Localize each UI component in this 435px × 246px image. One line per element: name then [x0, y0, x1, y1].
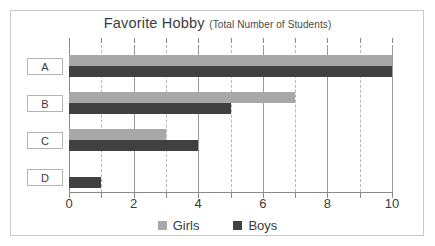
- chart-title: Favorite Hobby (Total Number of Students…: [0, 14, 435, 32]
- x-tick-label-10: 10: [377, 196, 407, 211]
- tick-top-2: [134, 38, 135, 43]
- tick-top-5: [231, 38, 232, 43]
- category-label-A: A: [27, 58, 63, 75]
- x-tick-label-8: 8: [312, 196, 342, 211]
- tick-bottom-3: [166, 193, 167, 198]
- category-label-D: D: [27, 169, 63, 186]
- category-label-B: B: [27, 95, 63, 112]
- x-tick-label-0: 0: [54, 196, 84, 211]
- x-tick-label-4: 4: [183, 196, 213, 211]
- bar-A-boys: [69, 66, 392, 77]
- chart-title-main: Favorite Hobby: [104, 15, 205, 31]
- chart-figure: Favorite Hobby (Total Number of Students…: [0, 0, 435, 246]
- bar-C-girls: [69, 129, 166, 140]
- bar-C-boys: [69, 140, 198, 151]
- tick-top-0: [69, 38, 70, 43]
- tick-top-9: [360, 38, 361, 43]
- bar-B-boys: [69, 103, 231, 114]
- legend-label-boys: Boys: [248, 218, 277, 233]
- x-tick-label-2: 2: [119, 196, 149, 211]
- tick-top-3: [166, 38, 167, 43]
- plot-area: [69, 45, 392, 192]
- tick-bottom-7: [295, 193, 296, 198]
- bar-B-girls: [69, 92, 295, 103]
- legend-item-boys[interactable]: Boys: [233, 218, 277, 233]
- chart-title-subtitle: (Total Number of Students): [209, 19, 331, 30]
- tick-bottom-1: [101, 193, 102, 198]
- tick-bottom-9: [360, 193, 361, 198]
- chart-legend: Girls Boys: [0, 218, 435, 233]
- legend-label-girls: Girls: [173, 218, 200, 233]
- category-label-C: C: [27, 132, 63, 149]
- legend-swatch-boys-icon: [233, 221, 242, 230]
- tick-top-7: [295, 38, 296, 43]
- bar-D-boys: [69, 177, 101, 188]
- tick-top-6: [263, 38, 264, 43]
- tick-top-1: [101, 38, 102, 43]
- gridline-10: [392, 45, 393, 192]
- tick-bottom-5: [231, 193, 232, 198]
- x-tick-label-6: 6: [248, 196, 278, 211]
- legend-swatch-girls-icon: [158, 221, 167, 230]
- legend-item-girls[interactable]: Girls: [158, 218, 200, 233]
- tick-top-8: [327, 38, 328, 43]
- tick-top-4: [198, 38, 199, 43]
- bar-A-girls: [69, 55, 392, 66]
- tick-top-10: [392, 38, 393, 43]
